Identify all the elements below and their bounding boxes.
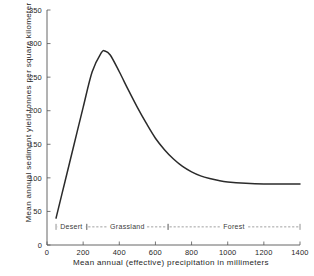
- x-tick-label: 0: [45, 248, 49, 257]
- x-tick-label: 400: [113, 248, 126, 257]
- x-tick-label: 600: [149, 248, 162, 257]
- y-tick-label: 250: [29, 73, 42, 82]
- y-tick-label: 0: [38, 241, 42, 250]
- data-series-line: [56, 51, 300, 219]
- zone-label: Forest: [223, 223, 245, 230]
- zone-annotations: DesertGrasslandForest: [56, 223, 300, 230]
- chart-plot-area: 050100150200250300350 020040060080010001…: [0, 0, 314, 276]
- chart-figure: Mean annual sediment yield tonnes per sq…: [0, 0, 314, 276]
- y-tick-label: 50: [33, 207, 42, 216]
- y-tick-label: 300: [29, 39, 42, 48]
- x-tick-label: 800: [185, 248, 198, 257]
- x-tick-label: 1200: [255, 248, 273, 257]
- y-tick-label: 350: [29, 6, 42, 15]
- x-axis-ticks: 0200400600800100012001400: [45, 242, 309, 258]
- y-tick-label: 150: [29, 140, 42, 149]
- x-tick-label: 1400: [291, 248, 309, 257]
- zone-label: Desert: [60, 223, 82, 230]
- y-tick-label: 100: [29, 174, 42, 183]
- y-tick-label: 200: [29, 106, 42, 115]
- x-tick-label: 200: [77, 248, 90, 257]
- zone-label: Grassland: [110, 223, 145, 230]
- x-tick-label: 1000: [219, 248, 237, 257]
